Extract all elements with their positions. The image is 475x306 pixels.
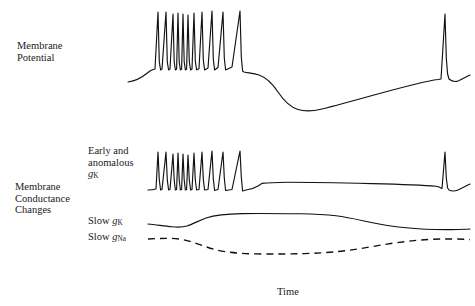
slow-gk-subscript-k: K — [117, 219, 122, 227]
slow-gna-label-text: Slow — [88, 231, 112, 242]
early-anomalous-label-line2: anomalous — [88, 157, 134, 169]
figure-container: Membrane Potential Membrane Conductance … — [0, 0, 475, 306]
slow-gna-subscript-na: Na — [117, 235, 126, 243]
membrane-potential-label: Membrane Potential — [17, 40, 62, 63]
slow-gna-label: Slow gNa — [88, 231, 126, 246]
early-anomalous-gk-path — [148, 151, 470, 191]
membrane-conductance-label-line2: Conductance — [15, 193, 70, 205]
membrane-conductance-label-line3: Changes — [15, 204, 70, 216]
membrane-potential-path — [128, 11, 470, 111]
slow-gna-path — [148, 238, 470, 254]
conductance-subscript-k: K — [93, 172, 98, 180]
slow-gk-label: Slow gK — [88, 215, 123, 230]
slow-gk-label-text: Slow — [88, 215, 112, 226]
time-axis-label: Time — [277, 286, 299, 298]
early-anomalous-label-line1: Early and — [88, 145, 134, 157]
membrane-potential-trace — [128, 11, 470, 111]
early-anomalous-gk-trace — [148, 151, 470, 191]
slow-gk-trace — [148, 214, 470, 230]
membrane-conductance-label: Membrane Conductance Changes — [15, 181, 70, 216]
membrane-potential-label-line2: Potential — [17, 52, 62, 64]
slow-gk-path — [148, 214, 470, 230]
slow-gna-trace — [148, 238, 470, 254]
membrane-potential-label-line1: Membrane — [17, 40, 62, 52]
trace-plot — [0, 0, 475, 306]
membrane-conductance-label-line1: Membrane — [15, 181, 70, 193]
early-anomalous-label-symbol: gK — [88, 168, 134, 183]
early-anomalous-gk-label: Early and anomalous gK — [88, 145, 134, 183]
